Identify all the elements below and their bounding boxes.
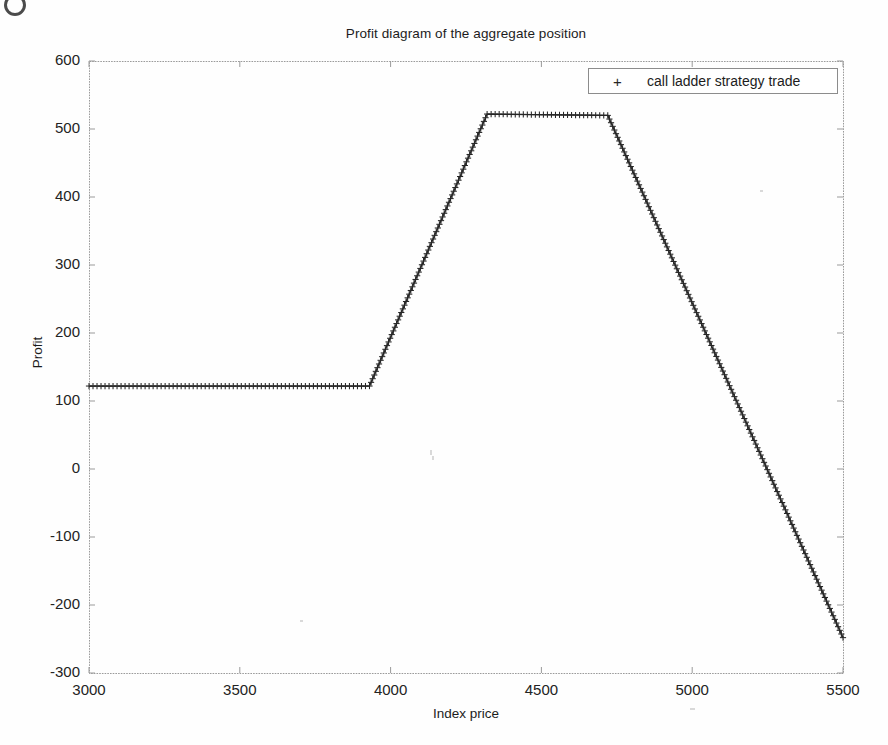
y-tick-label: 200 bbox=[18, 323, 80, 340]
y-tick-label: -200 bbox=[18, 595, 80, 612]
x-tick-label: 3500 bbox=[200, 681, 280, 698]
scan-speck bbox=[432, 456, 434, 460]
legend-plus-marker: + bbox=[613, 73, 622, 90]
y-tick-label: 600 bbox=[18, 51, 80, 68]
x-tick-label: 3000 bbox=[49, 681, 129, 698]
data-markers-plus bbox=[86, 111, 846, 641]
scan-speck bbox=[760, 190, 763, 192]
y-tick-label: -100 bbox=[18, 527, 80, 544]
x-tick-label: 5000 bbox=[652, 681, 732, 698]
x-tick-label: 4500 bbox=[501, 681, 581, 698]
scan-speck bbox=[300, 620, 303, 622]
x-axis-label: Index price bbox=[89, 706, 843, 721]
series-line bbox=[89, 114, 843, 638]
y-tick-label: 300 bbox=[18, 255, 80, 272]
x-tick-label: 4000 bbox=[351, 681, 431, 698]
plot-area bbox=[0, 0, 888, 745]
y-tick-label: -300 bbox=[18, 663, 80, 680]
figure-canvas: Profit diagram of the aggregate position… bbox=[0, 0, 888, 745]
tick-marks bbox=[89, 61, 843, 673]
scan-speck bbox=[690, 708, 695, 710]
scan-speck bbox=[430, 450, 432, 455]
y-axis-label: Profit bbox=[30, 308, 45, 398]
legend-entry-label: call ladder strategy trade bbox=[647, 73, 800, 90]
x-tick-label: 5500 bbox=[803, 681, 883, 698]
y-tick-label: 400 bbox=[18, 187, 80, 204]
legend: + call ladder strategy trade bbox=[588, 68, 838, 94]
axes-layer bbox=[90, 62, 844, 674]
axes-frame bbox=[90, 62, 844, 674]
scan-speck bbox=[560, 30, 564, 33]
data-series-call-ladder bbox=[89, 114, 843, 638]
y-tick-label: 500 bbox=[18, 119, 80, 136]
y-tick-label: 0 bbox=[18, 459, 80, 476]
y-tick-label: 100 bbox=[18, 391, 80, 408]
